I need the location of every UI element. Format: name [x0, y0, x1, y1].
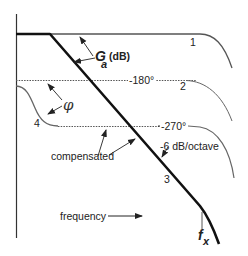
- arrow-gain-to-curve1: [80, 37, 93, 56]
- arrow-gain-to-curve3: [74, 58, 95, 62]
- curve-4-label: 4: [34, 117, 40, 129]
- gain-label: G a (dB): [95, 48, 130, 70]
- svg-text:(dB): (dB): [109, 50, 130, 62]
- curve-3-label: 3: [164, 173, 170, 185]
- curve-2-label: 2: [180, 80, 186, 92]
- phase-180-label: -180°: [129, 74, 154, 86]
- compensated-label: compensated: [51, 150, 114, 162]
- phase-270-label: -270°: [161, 120, 186, 132]
- curve-4-tail: [188, 126, 234, 178]
- phase-symbol: φ: [63, 96, 74, 114]
- curve-3-compensated-gain: [16, 34, 219, 244]
- slope-label: -6 dB/octave: [160, 140, 219, 152]
- arrow-phi-to-curve4: [48, 106, 62, 114]
- curve-2-phase: [186, 81, 232, 122]
- arrow-phi-to-dotted: [48, 84, 62, 100]
- svg-text:a: a: [101, 58, 107, 70]
- fx-label: f x: [198, 227, 210, 247]
- curve-1-label: 1: [190, 36, 196, 48]
- bode-diagram: 1 2 3 4 G a (dB) φ -180° -270° compensat…: [0, 0, 248, 256]
- frequency-label: frequency: [60, 210, 107, 222]
- svg-text:x: x: [202, 235, 210, 247]
